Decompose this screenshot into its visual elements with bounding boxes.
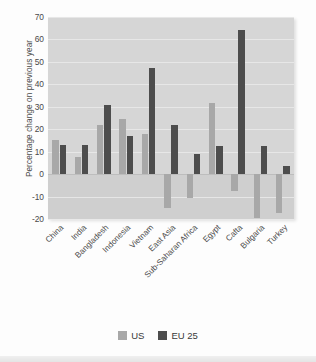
bar-eu-25-indonesia xyxy=(127,136,133,174)
x-axis-labels: ChinaIndiaBangladeshIndonesiaVietnamEast… xyxy=(48,219,294,299)
bar-us-vietnam xyxy=(142,134,148,174)
bar-eu-25-turkey xyxy=(283,166,289,174)
legend-label: EU 25 xyxy=(171,330,197,341)
y-tick-label: 50 xyxy=(35,57,44,67)
y-tick-label: 60 xyxy=(35,34,44,44)
bar-eu-25-india xyxy=(82,145,88,174)
legend-item-us: US xyxy=(118,330,144,341)
gridline xyxy=(48,84,294,85)
page-bottom-edge xyxy=(0,356,316,362)
gridline xyxy=(48,17,294,18)
gridline xyxy=(48,39,294,40)
legend-swatch-icon xyxy=(118,331,127,340)
bar-eu-25-east-asia xyxy=(171,125,177,174)
y-tick-label: 20 xyxy=(35,124,44,134)
y-tick-label: 70 xyxy=(35,12,44,22)
bar-us-turkey xyxy=(276,174,282,213)
bar-us-india xyxy=(75,157,81,174)
y-axis-title: Percentage change on previous year xyxy=(25,14,34,204)
bar-us-bulgaria xyxy=(254,174,260,218)
legend-item-eu-25: EU 25 xyxy=(158,330,197,341)
bar-us-indonesia xyxy=(119,119,125,174)
bar-us-bangladesh xyxy=(97,125,103,174)
y-tick-label: -20 xyxy=(32,214,44,224)
chart-figure: Percentage change on previous year 70605… xyxy=(0,0,316,362)
bar-eu-25-bulgaria xyxy=(261,146,267,174)
bar-us-egypt xyxy=(209,103,215,174)
bar-eu-25-egypt xyxy=(216,146,222,174)
bar-eu-25-china xyxy=(60,145,66,174)
bar-eu-25-vietnam xyxy=(149,68,155,175)
legend-swatch-icon xyxy=(158,331,167,340)
plot-area: 706050403020100-10-20 xyxy=(48,17,294,219)
bar-eu-25-cafta xyxy=(238,30,244,174)
gridline xyxy=(48,107,294,108)
bar-us-china xyxy=(52,140,58,174)
x-tick-label-china: China xyxy=(44,223,66,245)
chart-legend: USEU 25 xyxy=(0,330,316,341)
bar-eu-25-bangladesh xyxy=(104,105,110,175)
y-tick-label: 0 xyxy=(39,169,44,179)
legend-label: US xyxy=(131,330,144,341)
bar-us-cafta xyxy=(231,174,237,191)
gridline xyxy=(48,62,294,63)
y-tick-label: 40 xyxy=(35,79,44,89)
bar-us-east-asia xyxy=(164,174,170,208)
x-tick-label-turkey: Turkey xyxy=(265,223,289,247)
x-tick-label-india: India xyxy=(69,223,88,242)
y-tick-label: 30 xyxy=(35,102,44,112)
x-tick-label-egypt: Egypt xyxy=(201,223,222,244)
bar-us-sub-saharan-africa xyxy=(187,174,193,198)
y-tick-label: 10 xyxy=(35,147,44,157)
y-tick-label: -10 xyxy=(32,192,44,202)
bar-eu-25-sub-saharan-africa xyxy=(194,154,200,174)
